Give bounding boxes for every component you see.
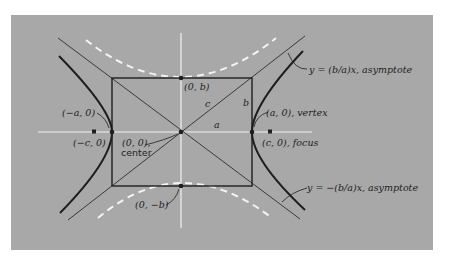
- label-right-focus: (c, 0), focus: [262, 137, 319, 148]
- hyperbola-diagram: (0, b) (0, −b) (−a, 0) (−c, 0) (0, 0), c…: [0, 0, 449, 263]
- left-focus-point: [92, 130, 96, 134]
- label-seg-b: b: [243, 97, 249, 108]
- top-point: [179, 76, 184, 81]
- left-vertex-point: [110, 130, 115, 135]
- label-seg-c: c: [205, 98, 211, 109]
- label-top-point: (0, b): [184, 81, 210, 92]
- right-vertex-point: [250, 130, 255, 135]
- label-left-focus: (−c, 0): [73, 137, 106, 148]
- label-center-l2: center: [121, 147, 152, 158]
- right-focus-point: [268, 130, 272, 134]
- label-left-vertex: (−a, 0): [62, 107, 95, 118]
- bottom-point: [179, 184, 184, 189]
- label-seg-a: a: [214, 119, 220, 130]
- label-asymptote-neg: y = −(b/a)x, asymptote: [306, 182, 418, 193]
- label-right-vertex: (a, 0), vertex: [266, 107, 328, 118]
- label-bottom-point: (0, −b): [135, 199, 169, 210]
- label-asymptote-pos: y = (b/a)x, asymptote: [308, 64, 412, 75]
- center-point: [179, 130, 184, 135]
